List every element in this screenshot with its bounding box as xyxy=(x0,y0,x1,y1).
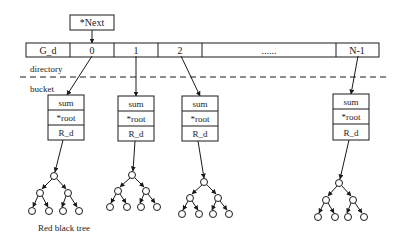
pointer-arrow-0 xyxy=(67,56,92,95)
bucket-field-sum: sum xyxy=(192,99,207,109)
next-pointer-box: *Next xyxy=(70,15,114,30)
directory-cell-n-1: N-1 xyxy=(349,45,365,56)
directory-array: G_d 0 1 2 ...... N-1 xyxy=(26,43,379,57)
bucket-field-sum: sum xyxy=(58,98,73,108)
directory-cell-0: 0 xyxy=(90,45,95,56)
directory-section-label: directory xyxy=(30,64,63,74)
red-black-tree-n-1 xyxy=(315,180,368,221)
bucket-1: sum *root R_d xyxy=(118,96,154,141)
bucket-field-local-depth: R_d xyxy=(58,128,74,138)
bucket-section-label: bucket xyxy=(30,84,54,94)
bucket-field-root: *root xyxy=(127,114,146,124)
root-arrow-2 xyxy=(198,141,204,178)
next-pointer-label: *Next xyxy=(80,17,105,28)
extendible-hashing-diagram: *Next G_d 0 1 2 ...... N-1 directory buc… xyxy=(0,0,397,242)
bucket-field-sum: sum xyxy=(128,99,143,109)
directory-cell-1: 1 xyxy=(134,45,139,56)
red-black-tree-caption: Red black tree xyxy=(38,223,90,233)
directory-cell-2: 2 xyxy=(178,45,183,56)
root-arrow-1 xyxy=(133,141,135,171)
root-arrow-n-1 xyxy=(340,140,349,179)
bucket-field-local-depth: R_d xyxy=(343,128,359,138)
bucket-field-root: *root xyxy=(342,112,361,122)
red-black-tree-1 xyxy=(107,172,161,211)
bucket-n-1: sum *root R_d xyxy=(333,94,369,140)
bucket-field-sum: sum xyxy=(343,97,358,107)
bucket-0: sum *root R_d xyxy=(48,95,84,140)
bucket-field-root: *root xyxy=(57,113,76,123)
pointer-arrow-2 xyxy=(181,56,200,96)
bucket-field-root: *root xyxy=(191,114,210,124)
pointer-arrow-n-1 xyxy=(351,56,358,94)
directory-cell-ellipsis: ...... xyxy=(262,45,277,56)
red-black-tree-2 xyxy=(179,179,233,218)
directory-cell-global-depth: G_d xyxy=(39,45,56,56)
bucket-field-local-depth: R_d xyxy=(128,129,144,139)
bucket-field-local-depth: R_d xyxy=(192,129,208,139)
red-black-tree-0 xyxy=(29,173,83,215)
bucket-2: sum *root R_d xyxy=(182,96,218,141)
root-arrow-0 xyxy=(55,140,63,172)
